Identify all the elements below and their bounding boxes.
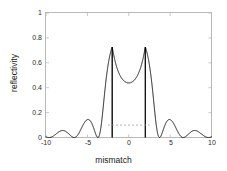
y-tick-marks xyxy=(46,13,212,138)
x-tick-label: 5 xyxy=(161,139,181,147)
y-tick-label: 0.4 xyxy=(20,84,42,92)
plot-frame xyxy=(46,13,212,138)
y-tick-label: 0.6 xyxy=(20,59,42,67)
x-axis-title: mismatch xyxy=(0,155,227,165)
x-tick-label: -10 xyxy=(36,139,56,147)
x-tick-label: -5 xyxy=(78,139,98,147)
x-tick-label: 0 xyxy=(119,139,139,147)
x-tick-label: 10 xyxy=(202,139,222,147)
y-tick-label: 0.2 xyxy=(20,109,42,117)
y-tick-label: 0.8 xyxy=(20,34,42,42)
x-tick-marks xyxy=(46,13,212,138)
axes-frame xyxy=(46,13,212,138)
y-tick-label: 1 xyxy=(20,9,42,17)
chart-figure: 1 0.8 0.6 0.4 0.2 0 -10 -5 0 5 10 mismat… xyxy=(0,0,227,171)
reflectivity-curve xyxy=(46,47,212,137)
y-axis-title: reflectivity xyxy=(9,43,19,103)
